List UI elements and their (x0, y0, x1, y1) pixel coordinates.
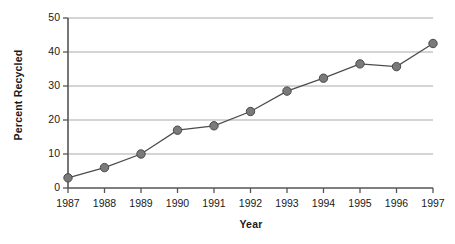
data-point-marker (283, 87, 291, 95)
data-point-marker (246, 107, 254, 115)
data-point-marker (137, 150, 145, 158)
y-tick-label: 30 (34, 79, 60, 91)
data-point-marker (210, 122, 218, 130)
gridlines-group (68, 18, 433, 154)
data-point-marker (64, 174, 72, 182)
x-tick-label: 1997 (411, 197, 455, 209)
line-chart: Percent Recycled Year 01020304050 198719… (0, 0, 455, 244)
y-axis-title: Percent Recycled (12, 50, 24, 141)
data-point-marker (392, 62, 400, 70)
data-point-marker (319, 74, 327, 82)
x-axis-title: Year (240, 218, 263, 230)
data-point-marker (429, 39, 437, 47)
y-tick-label: 20 (34, 113, 60, 125)
data-point-marker (100, 163, 108, 171)
data-point-marker (173, 126, 181, 134)
axis-lines-group (68, 18, 433, 188)
y-tick-label: 0 (34, 181, 60, 193)
y-axis-title-container: Percent Recycled (4, 0, 32, 190)
data-markers-group (64, 39, 437, 182)
x-axis-title-container: Year (68, 214, 434, 232)
x-tick-marks-group (68, 188, 433, 193)
y-tick-label: 40 (34, 45, 60, 57)
data-point-marker (356, 60, 364, 68)
y-tick-label: 10 (34, 147, 60, 159)
y-tick-label: 50 (34, 11, 60, 23)
